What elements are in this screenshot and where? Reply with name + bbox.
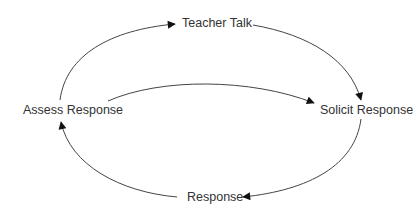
arrow-teacher-talk-to-solicit: [253, 25, 361, 100]
node-response: Response: [187, 190, 243, 204]
arrow-assess-to-teacher-talk: [60, 24, 175, 100]
node-solicit-response: Solicit Response: [320, 103, 413, 117]
node-teacher-talk: Teacher Talk: [182, 16, 252, 30]
arrow-solicit-to-response: [243, 119, 361, 197]
arrow-response-to-assess: [61, 122, 177, 197]
arrow-assess-to-solicit: [108, 84, 314, 103]
node-assess-response: Assess Response: [23, 103, 123, 117]
cycle-diagram: Teacher Talk Solicit Response Response A…: [0, 0, 416, 215]
